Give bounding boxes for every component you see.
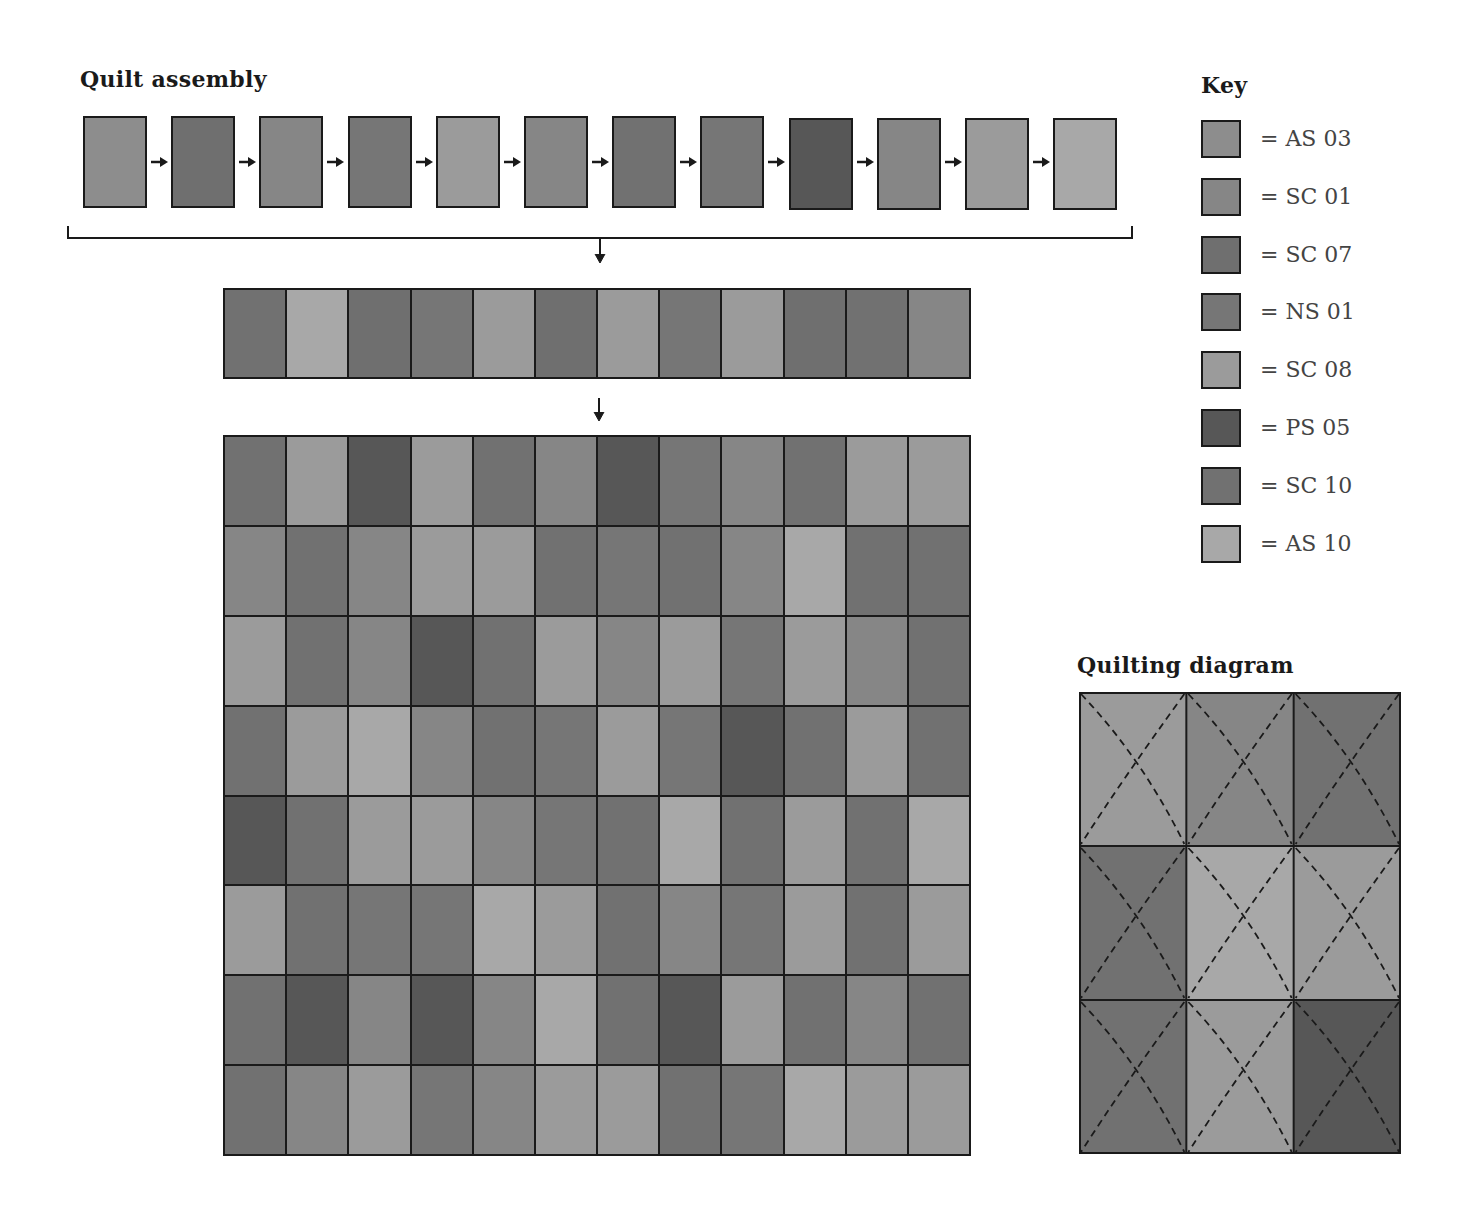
key-swatch <box>1201 120 1241 158</box>
right-arrow-icon <box>238 156 256 168</box>
joined-row-block <box>598 290 658 377</box>
quilt-block <box>287 1066 347 1154</box>
key-label: = SC 10 <box>1260 473 1352 498</box>
key-swatch <box>1201 178 1241 216</box>
quilt-block <box>536 527 596 615</box>
right-arrow-icon <box>415 156 433 168</box>
quilt-block <box>847 1066 907 1154</box>
quilt-block <box>660 797 720 885</box>
quilt-block <box>536 1066 596 1154</box>
quilt-block <box>225 1066 285 1154</box>
quilt-block <box>909 886 969 974</box>
key-label: = SC 07 <box>1260 242 1352 267</box>
assembly-block <box>436 116 500 208</box>
joined-row-block <box>722 290 782 377</box>
quilt-block <box>349 527 409 615</box>
quilt-block <box>909 1066 969 1154</box>
key-swatch <box>1201 525 1241 563</box>
joined-row-block <box>287 290 347 377</box>
quilt-block <box>909 707 969 795</box>
quilt-block <box>412 707 472 795</box>
quilt-block <box>474 976 534 1064</box>
assembly-block <box>348 116 412 208</box>
assembly-block <box>789 118 853 210</box>
quilt-block <box>474 1066 534 1154</box>
key-label: = NS 01 <box>1260 299 1355 324</box>
quilt-block <box>536 797 596 885</box>
assembly-block <box>83 116 147 208</box>
quilt-block <box>474 527 534 615</box>
quilt-block <box>909 976 969 1064</box>
key-swatch <box>1201 467 1241 505</box>
quilt-block <box>909 437 969 525</box>
quilt-block <box>349 886 409 974</box>
joined-row-block <box>412 290 472 377</box>
quilt-block <box>660 527 720 615</box>
quilt-block <box>225 527 285 615</box>
right-arrow-icon <box>944 156 962 168</box>
assembly-block <box>171 116 235 208</box>
quilt-block <box>909 797 969 885</box>
quilt-block <box>349 797 409 885</box>
joined-row <box>223 288 971 379</box>
quilt-block <box>412 1066 472 1154</box>
quilt-block <box>287 797 347 885</box>
assembly-title: Quilt assembly <box>80 66 267 92</box>
quilt-block <box>847 617 907 705</box>
quilt-block <box>536 617 596 705</box>
quilt-block <box>536 437 596 525</box>
right-arrow-icon <box>856 156 874 168</box>
quilt-block <box>412 976 472 1064</box>
quilt-block <box>349 617 409 705</box>
quilt-block <box>598 527 658 615</box>
key-swatch <box>1201 293 1241 331</box>
quilt-block <box>474 886 534 974</box>
right-arrow-icon <box>767 156 785 168</box>
quilt-block <box>598 437 658 525</box>
quilt-block <box>722 797 782 885</box>
joined-row-block <box>536 290 596 377</box>
quilt-block <box>225 976 285 1064</box>
quilt-block <box>349 437 409 525</box>
quilt-block <box>785 886 845 974</box>
assembly-block <box>1053 118 1117 210</box>
assembly-block <box>877 118 941 210</box>
assembly-block <box>612 116 676 208</box>
key-label: = PS 05 <box>1260 415 1350 440</box>
quilt-block <box>412 527 472 615</box>
right-arrow-icon <box>326 156 344 168</box>
quilt-block <box>474 707 534 795</box>
quilt-block <box>598 797 658 885</box>
quilt-block <box>785 707 845 795</box>
key-swatch <box>1201 236 1241 274</box>
quilt-block <box>722 617 782 705</box>
key-swatch <box>1201 351 1241 389</box>
quilt-block <box>722 1066 782 1154</box>
key-title: Key <box>1201 72 1247 98</box>
right-arrow-icon <box>1032 156 1050 168</box>
quilting-title: Quilting diagram <box>1077 652 1294 678</box>
key-label: = AS 03 <box>1260 126 1351 151</box>
right-arrow-icon <box>503 156 521 168</box>
quilt-block <box>722 976 782 1064</box>
right-arrow-icon <box>150 156 168 168</box>
quilt-block <box>287 617 347 705</box>
quilt-block <box>785 976 845 1064</box>
quilt-block <box>785 617 845 705</box>
assembly-block <box>524 116 588 208</box>
quilt-block <box>349 707 409 795</box>
key-swatch <box>1201 409 1241 447</box>
quilt-block <box>287 976 347 1064</box>
quilt-block <box>847 886 907 974</box>
quilt-block <box>660 1066 720 1154</box>
joined-row-block <box>660 290 720 377</box>
quilt-block <box>847 976 907 1064</box>
bracket-connector <box>60 220 1140 270</box>
quilt-block <box>287 707 347 795</box>
key-label: = SC 01 <box>1260 184 1352 209</box>
quilt-block <box>349 976 409 1064</box>
joined-row-block <box>909 290 969 377</box>
assembly-block <box>965 118 1029 210</box>
quilt-block <box>722 437 782 525</box>
quilt-block <box>536 707 596 795</box>
